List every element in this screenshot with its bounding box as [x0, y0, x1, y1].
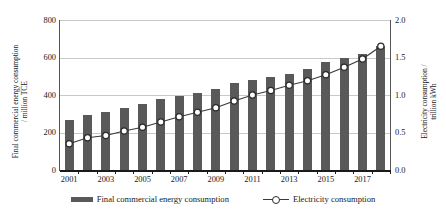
x-axis-tickmark: [298, 170, 299, 174]
line-marker: [378, 43, 384, 49]
x-axis-tickmark: [78, 170, 79, 174]
line-marker: [231, 98, 237, 104]
x-axis-tickmark: [188, 170, 189, 174]
x-axis-tick-label: 2011: [236, 175, 270, 184]
line-marker: [66, 141, 72, 147]
plot-area: [60, 20, 390, 170]
y-axis-right-title: Electricity consumption / trillion kWh: [421, 23, 438, 181]
y-axis-left-tick-label: 800: [30, 16, 56, 25]
x-axis-tickmark: [353, 170, 354, 174]
line-marker: [194, 109, 200, 115]
chart-legend: Final commercial energy consumption Elec…: [0, 191, 446, 207]
x-axis-tick-label: 2003: [89, 175, 123, 184]
y-axis-right-tick-label: 2.0: [395, 16, 421, 25]
x-axis-tickmark: [243, 170, 244, 174]
x-axis-tick-label: 2005: [126, 175, 160, 184]
y-axis-left-tick-label: 200: [30, 128, 56, 137]
x-axis-tickmark: [317, 170, 318, 174]
y-axis-left-tick-label: 0: [30, 166, 56, 175]
line-marker: [323, 72, 329, 78]
line-series: [60, 20, 390, 170]
x-axis-tickmark: [390, 170, 391, 174]
y-axis-left-title-line2: / million TCE: [21, 23, 30, 181]
x-axis-tick-label: 2007: [162, 175, 196, 184]
chart-figure: Final commercial energy consumption / mi…: [0, 0, 446, 215]
line-marker: [268, 87, 274, 93]
x-axis-tick-label: 2017: [346, 175, 380, 184]
x-axis-tickmark: [115, 170, 116, 174]
legend-line-label: Electricity consumption: [293, 194, 375, 204]
x-axis-tick-label: 2015: [309, 175, 343, 184]
x-axis-tickmark: [97, 170, 98, 174]
y-axis-left-title: Final commercial energy consumption / mi…: [12, 23, 29, 181]
y-axis-right-tick-label: 0.0: [395, 166, 421, 175]
x-axis-tickmark: [133, 170, 134, 174]
y-axis-left-tick-label: 400: [30, 91, 56, 100]
x-axis-tickmark: [225, 170, 226, 174]
y-axis-right-tick-label: 1.0: [395, 91, 421, 100]
x-axis-tickmark: [280, 170, 281, 174]
line-marker: [341, 64, 347, 70]
line-marker: [176, 114, 182, 120]
x-axis-tickmark: [335, 170, 336, 174]
y-axis-right-tick-label: 0.5: [395, 128, 421, 137]
y-axis-right-spine: [390, 20, 391, 171]
line-marker: [249, 92, 255, 98]
line-marker: [121, 128, 127, 134]
y-axis-left-tick-label: 600: [30, 53, 56, 62]
legend-item-line: Electricity consumption: [263, 194, 375, 204]
line-marker: [158, 119, 164, 125]
line-marker: [304, 78, 310, 84]
line-marker: [359, 56, 365, 62]
x-axis-tick-label: 2001: [52, 175, 86, 184]
x-axis-tickmark: [262, 170, 263, 174]
x-axis-tickmark: [152, 170, 153, 174]
x-axis-tickmark: [207, 170, 208, 174]
x-axis-tickmark: [372, 170, 373, 174]
legend-line-swatch-icon: [263, 195, 289, 204]
y-axis-right-title-line2: trillion kWh: [430, 23, 439, 181]
legend-bar-label: Final commercial energy consumption: [97, 194, 229, 204]
line-marker: [286, 82, 292, 88]
line-marker: [139, 124, 145, 130]
legend-bar-swatch-icon: [71, 197, 93, 202]
y-axis-left-spine: [59, 20, 60, 171]
x-axis-tick-label: 2009: [199, 175, 233, 184]
y-axis-right-tick-label: 1.5: [395, 53, 421, 62]
line-marker: [103, 132, 109, 138]
line-marker: [84, 135, 90, 141]
legend-item-bar: Final commercial energy consumption: [71, 194, 229, 204]
line-marker: [213, 105, 219, 111]
x-axis-tick-label: 2013: [272, 175, 306, 184]
x-axis-tickmark: [170, 170, 171, 174]
